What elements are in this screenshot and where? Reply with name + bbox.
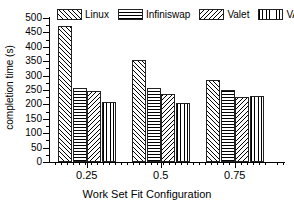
x-tick-minor bbox=[73, 162, 74, 165]
x-tick-minor bbox=[67, 162, 68, 165]
legend-label-vandi: VANDI bbox=[286, 10, 294, 20]
x-tick-minor bbox=[211, 162, 212, 165]
x-tick-minor bbox=[157, 162, 158, 165]
x-tick-minor bbox=[163, 162, 164, 165]
bar-valet-0.5 bbox=[161, 94, 175, 162]
x-tick-minor bbox=[109, 162, 110, 165]
x-tick-minor bbox=[115, 162, 116, 165]
x-tick-minor bbox=[55, 162, 56, 165]
y-tick-label-0: 0 bbox=[2, 157, 42, 167]
x-tick-minor bbox=[169, 162, 170, 165]
bar-vandi-0.25 bbox=[102, 102, 116, 162]
x-tick-minor bbox=[247, 162, 248, 165]
bar-valet-0.25 bbox=[87, 91, 101, 162]
x-tick-minor bbox=[199, 162, 200, 165]
x-tick-minor bbox=[97, 162, 98, 165]
x-tick-minor bbox=[235, 162, 236, 165]
x-tick-minor bbox=[151, 162, 152, 165]
y-axis-title: completion time (s) bbox=[4, 23, 15, 153]
x-tick-minor bbox=[187, 162, 188, 165]
bar-chart-figure: Linux Infiniswap Valet VANDI 05010015020… bbox=[0, 0, 294, 206]
bar-linux-0.5 bbox=[132, 60, 146, 162]
x-tick-minor bbox=[277, 162, 278, 165]
y-tick-label-500: 500 bbox=[2, 13, 42, 23]
x-tick-0.5 bbox=[161, 162, 162, 168]
plot-area bbox=[49, 18, 285, 162]
bar-vandi-0.75 bbox=[250, 96, 264, 162]
x-axis-title: Work Set Fit Configuration bbox=[0, 188, 294, 200]
x-tick-minor bbox=[103, 162, 104, 165]
x-tick-minor bbox=[229, 162, 230, 165]
bar-linux-0.75 bbox=[206, 80, 220, 162]
x-tick-minor bbox=[283, 162, 284, 165]
x-tick-minor bbox=[85, 162, 86, 165]
x-tick-minor bbox=[145, 162, 146, 165]
x-tick-label-0.25: 0.25 bbox=[62, 170, 112, 181]
bar-infiniswap-0.75 bbox=[221, 90, 235, 162]
x-tick-minor bbox=[175, 162, 176, 165]
y-tick-0 bbox=[43, 162, 49, 163]
bar-vandi-0.5 bbox=[176, 103, 190, 162]
bar-linux-0.25 bbox=[58, 26, 72, 163]
x-tick-minor bbox=[217, 162, 218, 165]
x-tick-minor bbox=[205, 162, 206, 165]
bar-valet-0.75 bbox=[235, 97, 249, 162]
bar-infiniswap-0.25 bbox=[73, 88, 87, 162]
x-tick-0.25 bbox=[87, 162, 88, 168]
x-tick-minor bbox=[181, 162, 182, 165]
bar-infiniswap-0.5 bbox=[147, 88, 161, 162]
x-tick-minor bbox=[127, 162, 128, 165]
x-tick-minor bbox=[79, 162, 80, 165]
x-tick-minor bbox=[265, 162, 266, 165]
x-tick-minor bbox=[193, 162, 194, 165]
x-tick-label-0.75: 0.75 bbox=[210, 170, 260, 181]
x-tick-minor bbox=[91, 162, 92, 165]
x-tick-minor bbox=[223, 162, 224, 165]
x-tick-minor bbox=[61, 162, 62, 165]
x-tick-label-0.5: 0.5 bbox=[136, 170, 186, 181]
x-tick-minor bbox=[253, 162, 254, 165]
x-tick-minor bbox=[121, 162, 122, 165]
x-tick-minor bbox=[139, 162, 140, 165]
x-tick-minor bbox=[241, 162, 242, 165]
x-tick-minor bbox=[133, 162, 134, 165]
x-tick-minor bbox=[259, 162, 260, 165]
